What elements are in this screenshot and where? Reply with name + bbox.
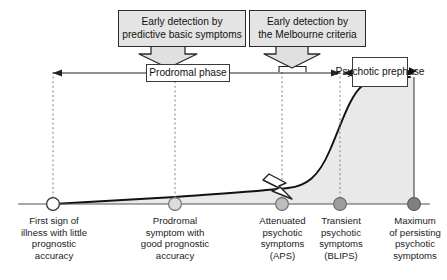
melbourne-criteria-block-arrow — [264, 46, 320, 68]
stage-line-1: Maximum — [369, 215, 447, 227]
callout-line-1: Early detection by — [258, 16, 357, 29]
stage-line-2: symptom with — [122, 227, 228, 239]
stage-line-2: of persisting — [369, 227, 447, 239]
phase-label-prodromal: Prodromal phase — [146, 64, 230, 82]
marker-maximum — [408, 198, 421, 211]
stage-label-prodromal-symptom: Prodromal symptom with good prognostic a… — [122, 215, 228, 261]
stage-line-3: psychotic — [369, 238, 447, 250]
prodromal-span-arrow-left — [53, 70, 62, 77]
callout-predictive-basic-symptoms: Early detection by predictive basic symp… — [118, 10, 246, 47]
phase-label-psychotic-prephase: Psychotic prephase — [352, 57, 408, 87]
stage-line-1: Transient — [303, 215, 379, 227]
stage-line-3: prognostic — [0, 238, 108, 250]
stage-label-first-sign: First sign of illness with little progno… — [0, 215, 108, 261]
callout-line-2: the Melbourne criteria — [258, 29, 357, 42]
stage-line-2: illness with little — [0, 227, 108, 239]
stage-line-4: accuracy — [122, 250, 228, 262]
stage-line-3: good prognostic — [122, 238, 228, 250]
callout-melbourne-criteria: Early detection by the Melbourne criteri… — [249, 10, 366, 47]
stage-label-maximum: Maximum of persisting psychotic symptoms — [369, 215, 447, 261]
marker-first-sign — [47, 198, 60, 211]
stage-line-1: First sign of — [0, 215, 108, 227]
psychosis-timeline-figure: Early detection by predictive basic symp… — [0, 0, 447, 280]
callout-line-2: predictive basic symptoms — [122, 29, 241, 42]
stage-label-blips: Transient psychotic symptoms (BLIPS) — [303, 215, 379, 261]
marker-aps — [276, 198, 289, 211]
stage-line-4: accuracy — [0, 250, 108, 262]
marker-prodromal-symptom — [169, 198, 182, 211]
stage-line-1: Prodromal — [122, 215, 228, 227]
severity-curve-fill — [53, 77, 414, 204]
stage-line-3: symptoms — [303, 238, 379, 250]
marker-blips — [334, 198, 347, 211]
callout-line-1: Early detection by — [122, 16, 241, 29]
phase-label-line-1: Psychotic — [336, 66, 380, 77]
phase-label-line-2: prephase — [382, 66, 424, 77]
stage-line-4: symptoms — [369, 250, 447, 262]
phase-label-text: Prodromal phase — [149, 67, 227, 79]
stage-line-4: (BLIPS) — [303, 250, 379, 262]
stage-line-2: psychotic — [303, 227, 379, 239]
